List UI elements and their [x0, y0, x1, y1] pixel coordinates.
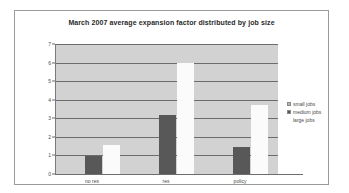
x-axis-line	[55, 174, 303, 175]
bar-medium	[85, 156, 102, 174]
bar-series-container	[56, 44, 278, 174]
legend-label: medium jobs	[293, 109, 321, 115]
bar-medium	[233, 147, 250, 174]
legend-label: large jobs	[293, 117, 315, 123]
x-axis-labels: no resrespolicy	[55, 176, 277, 188]
bar-large	[251, 105, 268, 174]
legend-label: small jobs	[293, 101, 315, 107]
legend-item: medium jobs	[287, 108, 335, 115]
y-axis-tick-label: 2	[33, 134, 51, 140]
legend-swatch-icon	[287, 102, 291, 106]
bar-group	[130, 44, 204, 174]
chart-legend: small jobsmedium jobslarge jobs	[287, 100, 335, 124]
y-axis-tick-label: 6	[33, 60, 51, 66]
chart-title: March 2007 average expansion factor dist…	[15, 19, 328, 26]
legend-item: small jobs	[287, 100, 335, 107]
bar-large	[103, 145, 120, 174]
y-axis: 01234567	[37, 44, 55, 174]
x-axis-label: res	[163, 178, 170, 184]
bar-group	[204, 44, 278, 174]
legend-swatch-icon	[287, 118, 291, 122]
chart-frame: March 2007 average expansion factor dist…	[14, 10, 329, 185]
x-axis-label: no res	[85, 178, 99, 184]
y-axis-tick-label: 4	[33, 97, 51, 103]
y-axis-tick-label: 7	[33, 41, 51, 47]
y-axis-tick-label: 1	[33, 152, 51, 158]
x-axis-label: policy	[234, 178, 247, 184]
bar-large	[177, 63, 194, 174]
legend-item: large jobs	[287, 116, 335, 123]
y-axis-tick-label: 5	[33, 78, 51, 84]
bar-medium	[159, 115, 176, 174]
legend-swatch-icon	[287, 110, 291, 114]
y-axis-tick-label: 0	[33, 171, 51, 177]
bar-group	[56, 44, 130, 174]
y-axis-tick-label: 3	[33, 115, 51, 121]
plot-area	[55, 44, 278, 174]
